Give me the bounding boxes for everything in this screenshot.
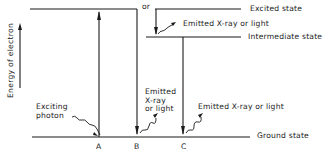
energy-level-diagram: [0, 0, 334, 152]
emitted-c-label: Emitted X-ray or light: [198, 103, 284, 112]
ground-state-label: Ground state: [257, 132, 309, 141]
emitted-upper-wave: [158, 24, 174, 34]
emitted-b-label: Emitted X-ray or light: [145, 88, 176, 114]
exciting-photon-wave: [72, 116, 100, 135]
emitted-b-wave: [140, 118, 156, 133]
transition-c-label: C: [181, 143, 187, 152]
or-label: or: [142, 3, 150, 12]
transition-b-label: B: [134, 143, 139, 152]
emitted-c-wave: [186, 117, 201, 133]
transition-a-label: A: [96, 143, 101, 152]
energy-axis-label: Energy of electron: [6, 23, 15, 98]
excited-state-label: Excited state: [250, 5, 302, 14]
upper-emission-label: Emitted X-ray or light: [183, 20, 269, 29]
intermediate-state-label: Intermediate state: [248, 33, 322, 42]
exciting-photon-label: Exciting photon: [36, 103, 68, 120]
